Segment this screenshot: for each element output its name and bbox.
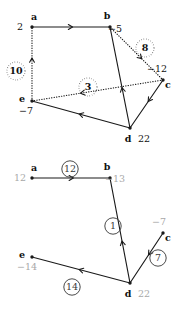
edge-b-d bbox=[110, 27, 130, 128]
node-label-a: a bbox=[31, 162, 37, 173]
node-label-e: e bbox=[19, 93, 25, 104]
graph-diagram: 1083a2b−5c−12d22e−7121714a12b−13c−7d22e−… bbox=[0, 0, 185, 311]
node-label-e: e bbox=[19, 249, 25, 260]
node-value-b: −5 bbox=[108, 23, 122, 34]
node-dot-e[interactable] bbox=[30, 255, 33, 258]
node-dot-a[interactable] bbox=[30, 176, 33, 179]
node-label-d: d bbox=[125, 288, 132, 299]
edge-weight-label-c-e: 3 bbox=[85, 81, 92, 92]
node-dot-a[interactable] bbox=[30, 25, 33, 28]
node-label-b: b bbox=[104, 161, 111, 172]
node-label-c: c bbox=[165, 232, 171, 243]
node-value-d: 22 bbox=[138, 133, 150, 144]
node-value-e: −7 bbox=[19, 105, 33, 116]
edge-weight-label-e-a: 10 bbox=[9, 65, 23, 76]
node-dot-d[interactable] bbox=[128, 126, 131, 129]
node-dot-e[interactable] bbox=[30, 99, 33, 102]
node-value-c: −7 bbox=[152, 216, 166, 227]
node-label-a: a bbox=[31, 11, 37, 22]
node-value-a: 2 bbox=[17, 21, 23, 32]
node-label-d: d bbox=[125, 133, 132, 144]
node-value-a: 12 bbox=[14, 172, 26, 183]
edge-d-e bbox=[32, 101, 130, 128]
edge-d-c bbox=[130, 80, 163, 128]
edge-weight-label-b-d: 1 bbox=[110, 220, 116, 231]
node-dot-d[interactable] bbox=[128, 281, 131, 284]
node-value-e: −14 bbox=[17, 261, 37, 272]
node-value-d: 22 bbox=[138, 288, 150, 299]
edge-weight-label-d-e: 14 bbox=[66, 281, 78, 292]
shortest-path-tree-graph: 121714a12b−13c−7d22e−14 bbox=[14, 161, 171, 299]
node-value-c: −12 bbox=[147, 63, 167, 74]
node-value-b: −13 bbox=[105, 173, 125, 184]
node-label-c: c bbox=[165, 79, 171, 90]
edge-d-e bbox=[32, 257, 130, 283]
figure-canvas: 1083a2b−5c−12d22e−7121714a12b−13c−7d22e−… bbox=[0, 0, 185, 311]
node-label-b: b bbox=[104, 10, 111, 21]
edge-weight-label-a-b: 12 bbox=[64, 163, 76, 174]
graph-with-dotted-and-solid-edges: 1083a2b−5c−12d22e−7 bbox=[7, 10, 171, 144]
edge-weight-label-d-c: 7 bbox=[155, 252, 161, 263]
arrowhead-b-c bbox=[137, 54, 142, 59]
edge-weight-label-b-c: 8 bbox=[142, 42, 149, 53]
edge-c-e bbox=[32, 80, 163, 101]
